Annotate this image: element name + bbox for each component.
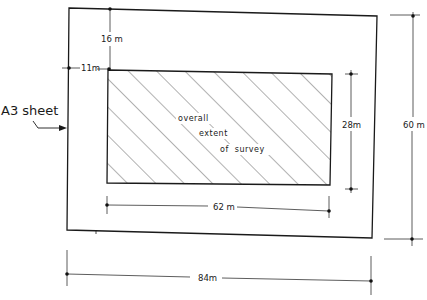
survey-layout-diagram: overall extent of survey 16 m 11m 28m 60… [0, 0, 427, 300]
dim-inner-height-label: 28m [342, 120, 361, 130]
dim-left-margin-label: 11m [81, 63, 100, 73]
inner-label-line-3: of survey [220, 145, 265, 154]
survey-extent-area [100, 60, 340, 195]
a3-sheet-label: A3 sheet [1, 103, 58, 118]
dim-inner-width-label: 62 m [213, 202, 235, 212]
dim-outer-width [65, 250, 373, 295]
dim-top-margin-label: 16 m [101, 34, 123, 44]
dim-inner-height [345, 70, 358, 193]
a3-sheet-arrow-icon [33, 121, 67, 131]
inner-label-line-1: overall [178, 114, 209, 123]
dim-outer-height-label: 60 m [403, 120, 425, 130]
dim-outer-width-label: 84m [198, 273, 217, 283]
inner-label-line-2: extent [199, 129, 228, 138]
